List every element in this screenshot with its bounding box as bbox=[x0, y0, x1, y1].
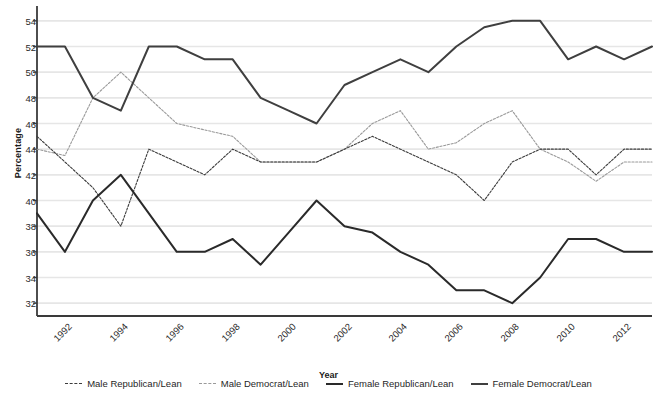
x-tick-label: 2008 bbox=[498, 321, 521, 344]
x-axis-tick-labels: 1992199419961998200020022004200620082010… bbox=[0, 0, 657, 397]
legend-line-swatch bbox=[65, 383, 82, 384]
legend-label: Male Republican/Lean bbox=[87, 378, 182, 389]
legend-item[interactable]: Female Democrat/Lean bbox=[471, 378, 592, 389]
legend-label: Male Democrat/Lean bbox=[221, 378, 309, 389]
x-tick-label: 2000 bbox=[275, 321, 298, 344]
legend-line-swatch bbox=[471, 383, 488, 385]
x-tick-label: 2004 bbox=[387, 321, 410, 344]
x-tick-label: 2012 bbox=[610, 321, 633, 344]
legend-label: Female Democrat/Lean bbox=[493, 378, 592, 389]
x-tick-label: 2002 bbox=[331, 321, 354, 344]
x-tick-label: 2010 bbox=[554, 321, 577, 344]
legend-item[interactable]: Female Republican/Lean bbox=[326, 378, 454, 389]
x-tick-label: 1998 bbox=[219, 321, 242, 344]
x-tick-label: 1994 bbox=[107, 321, 130, 344]
legend-item[interactable]: Male Republican/Lean bbox=[65, 378, 182, 389]
legend-item[interactable]: Male Democrat/Lean bbox=[199, 378, 309, 389]
chart-legend: Male Republican/LeanMale Democrat/LeanFe… bbox=[0, 378, 657, 389]
x-tick-label: 2006 bbox=[443, 321, 466, 344]
legend-label: Female Republican/Lean bbox=[348, 378, 454, 389]
x-tick-label: 1992 bbox=[51, 321, 74, 344]
line-chart: Percentage 323436384042444648505254 1992… bbox=[0, 0, 657, 397]
x-tick-label: 1996 bbox=[163, 321, 186, 344]
legend-line-swatch bbox=[199, 383, 216, 384]
legend-line-swatch bbox=[326, 383, 343, 385]
